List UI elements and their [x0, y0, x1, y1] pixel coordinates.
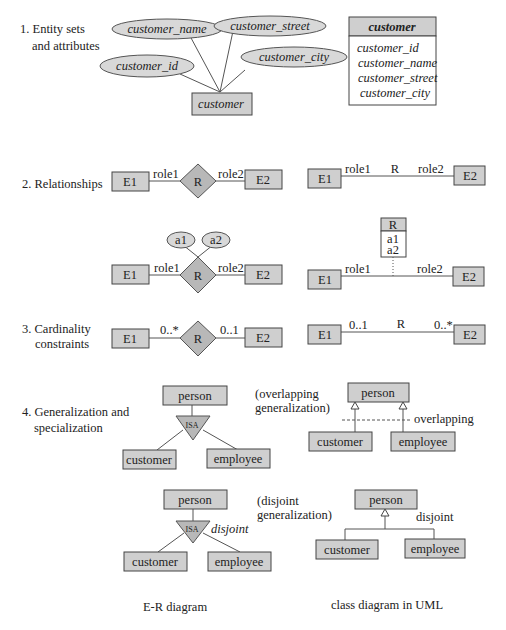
section-4-label: 4. Generalization and specialization [22, 405, 130, 435]
section-3-label: 3. Cardinality constraints [22, 322, 91, 351]
entity-customer: customer [192, 93, 252, 115]
svg-text:generalization): generalization) [255, 401, 330, 415]
svg-text:disjoint: disjoint [416, 510, 454, 524]
svg-text:a1: a1 [175, 233, 187, 247]
er-vs-uml-diagram: 1. Entity sets and attributes customer_n… [0, 0, 506, 630]
svg-text:E2: E2 [256, 173, 270, 187]
svg-text:1. Entity sets: 1. Entity sets [20, 22, 85, 36]
er-diagram-caption: E-R diagram [143, 600, 207, 614]
svg-text:employee: employee [214, 452, 263, 466]
svg-text:specialization: specialization [34, 421, 103, 435]
svg-text:0..1: 0..1 [220, 323, 239, 337]
svg-text:employee: employee [411, 542, 460, 556]
svg-text:role1: role1 [154, 261, 180, 275]
svg-text:constraints: constraints [35, 337, 89, 351]
uml-overlapping-generalization: person overlapping customer employee [309, 383, 474, 451]
section-2-label: 2. Relationships [22, 177, 103, 191]
svg-text:customer_id: customer_id [116, 59, 179, 73]
svg-text:role2: role2 [418, 162, 444, 176]
svg-text:E1: E1 [123, 268, 137, 282]
svg-text:(overlapping: (overlapping [255, 387, 320, 401]
svg-text:customer_name: customer_name [358, 56, 438, 70]
svg-text:customer: customer [368, 20, 415, 34]
svg-text:E1: E1 [318, 328, 332, 342]
attribute-customer-street: customer_street [214, 16, 326, 36]
er-disjoint-generalization: person ISA disjoint customer employee (d… [124, 490, 332, 571]
attribute-customer-id: customer_id [100, 55, 194, 77]
svg-text:customer: customer [126, 453, 173, 467]
uml-cardinality: E1 0..1 R 0..* E2 [308, 317, 485, 344]
uml-relationship: E1 role1 R role2 E2 [308, 162, 485, 188]
svg-text:customer_street: customer_street [230, 19, 310, 33]
svg-text:E2: E2 [462, 270, 476, 284]
svg-text:3. Cardinality: 3. Cardinality [22, 322, 91, 336]
svg-text:customer: customer [317, 435, 364, 449]
svg-text:role2: role2 [218, 261, 244, 275]
svg-text:customer: customer [198, 97, 244, 111]
svg-text:customer: customer [324, 543, 371, 557]
uml-disjoint-generalization: person disjoint customer employee [316, 490, 465, 559]
svg-text:role1: role1 [345, 162, 371, 176]
svg-text:customer_city: customer_city [259, 50, 330, 64]
svg-text:R: R [389, 218, 398, 232]
svg-text:employee: employee [399, 435, 448, 449]
er-relationship: E1 role1 R role2 E2 [112, 164, 282, 198]
svg-text:(disjoint: (disjoint [257, 494, 299, 508]
svg-text:person: person [178, 389, 212, 403]
svg-text:role2: role2 [218, 167, 244, 181]
svg-text:R: R [391, 162, 400, 176]
er-cardinality: E1 0..* R 0..1 E2 [112, 321, 282, 356]
uml-diagram-caption: class diagram in UML [331, 598, 443, 612]
svg-text:E2: E2 [463, 328, 477, 342]
svg-text:E1: E1 [318, 172, 332, 186]
er-entity-customer: customer_name customer_street customer_i… [100, 16, 347, 115]
svg-text:0..*: 0..* [160, 323, 179, 337]
svg-text:R: R [194, 175, 203, 189]
svg-text:role2: role2 [417, 262, 443, 276]
svg-text:customer_id: customer_id [357, 41, 420, 55]
svg-text:E2: E2 [256, 268, 270, 282]
svg-text:E1: E1 [123, 175, 137, 189]
svg-text:role1: role1 [153, 167, 179, 181]
attribute-customer-city: customer_city [241, 47, 347, 67]
svg-text:person: person [178, 493, 212, 507]
svg-text:customer: customer [132, 555, 179, 569]
er-overlapping-generalization: person ISA customer employee (overlappin… [123, 386, 330, 469]
svg-text:generalization): generalization) [257, 508, 332, 522]
svg-text:and attributes: and attributes [32, 39, 100, 53]
svg-text:a2: a2 [210, 233, 222, 247]
svg-text:E2: E2 [463, 169, 477, 183]
svg-text:ISA: ISA [186, 421, 199, 430]
svg-text:ISA: ISA [186, 525, 199, 534]
svg-text:E1: E1 [123, 332, 137, 346]
svg-text:0..*: 0..* [434, 318, 453, 332]
svg-text:disjoint: disjoint [211, 522, 249, 536]
svg-text:customer_city: customer_city [360, 86, 431, 100]
svg-text:4. Generalization and: 4. Generalization and [22, 405, 130, 419]
section-1-label: 1. Entity sets and attributes [20, 22, 100, 53]
svg-text:0..1: 0..1 [349, 318, 368, 332]
svg-text:employee: employee [215, 555, 264, 569]
svg-text:customer_street: customer_street [358, 71, 438, 85]
svg-text:a2: a2 [387, 243, 399, 257]
svg-text:R: R [194, 269, 203, 283]
svg-text:role1: role1 [345, 262, 371, 276]
svg-text:E2: E2 [256, 331, 270, 345]
uml-association-class: R a1 a2 E1 role1 role2 E2 [308, 218, 484, 289]
svg-text:person: person [361, 386, 395, 400]
uml-class-customer: customer customer_id customer_name custo… [349, 17, 438, 105]
svg-text:E1: E1 [318, 273, 332, 287]
er-relationship-with-attributes: a1 a2 E1 role1 R role2 E2 [112, 232, 282, 293]
svg-text:customer_name: customer_name [127, 22, 207, 36]
svg-text:overlapping: overlapping [414, 412, 474, 426]
svg-text:R: R [397, 317, 406, 331]
svg-text:R: R [194, 332, 203, 346]
svg-text:person: person [369, 493, 403, 507]
attribute-customer-name: customer_name [112, 19, 222, 39]
